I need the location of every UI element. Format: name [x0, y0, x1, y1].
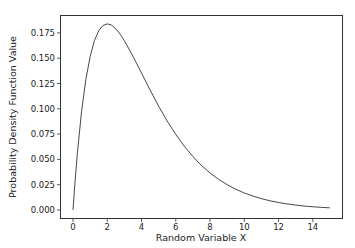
x-axis-label: Random Variable X [156, 232, 247, 243]
x-axis-ticks: 02468101214 [70, 219, 318, 233]
y-tick-label: 0.000 [31, 205, 55, 215]
x-tick-label: 2 [105, 222, 110, 232]
chart-canvas: 0.0000.0250.0500.0750.1000.1250.1500.175… [0, 0, 355, 248]
x-tick-label: 0 [70, 222, 75, 232]
x-tick-label: 6 [173, 222, 178, 232]
x-tick-label: 4 [139, 222, 144, 232]
y-tick-label: 0.125 [31, 79, 55, 89]
y-tick-label: 0.150 [31, 53, 55, 63]
y-tick-label: 0.175 [31, 28, 55, 38]
x-tick-label: 12 [273, 222, 284, 232]
y-axis-label: Probability Density Function Value [7, 36, 18, 198]
axes-frame [61, 16, 343, 219]
y-tick-label: 0.025 [31, 180, 55, 190]
y-tick-label: 0.075 [31, 129, 55, 139]
x-tick-label: 8 [207, 222, 212, 232]
y-tick-label: 0.100 [31, 104, 55, 114]
x-tick-label: 14 [307, 222, 318, 232]
pdf-curve [73, 24, 330, 210]
x-tick-label: 10 [239, 222, 250, 232]
y-axis-ticks: 0.0000.0250.0500.0750.1000.1250.1500.175 [31, 28, 61, 215]
y-tick-label: 0.050 [31, 154, 55, 164]
